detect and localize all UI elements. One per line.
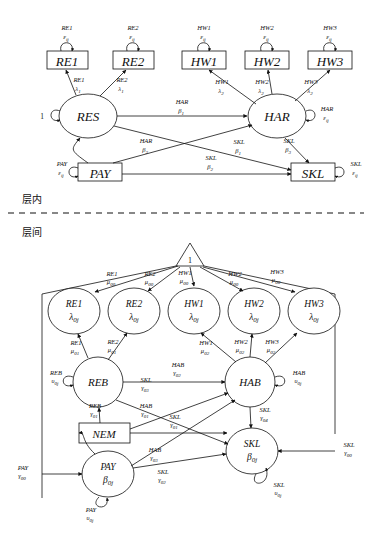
level-label-between: 层间 bbox=[22, 226, 42, 238]
residual-sym-payb: υ0j bbox=[87, 514, 94, 523]
pred-sym-hw1: μ02 bbox=[201, 347, 210, 356]
mean-label-hw3-top: HW3 bbox=[269, 268, 284, 275]
label-hw1-between-top: HW1 bbox=[183, 299, 204, 309]
residual-label-hw2-top: HW2 bbox=[259, 24, 274, 31]
path-label-res-skl-top: SKL bbox=[233, 138, 245, 145]
residual-label-re1-top: RE1 bbox=[60, 24, 72, 31]
loading-sym-re2: λ1 bbox=[117, 85, 123, 94]
path-label-hab-sklb-top: SKL bbox=[259, 406, 271, 413]
residual-loop-pay bbox=[69, 167, 78, 177]
label-skl-between-top: SKL bbox=[244, 439, 260, 449]
pred-sym-re1: μ01 bbox=[71, 347, 79, 356]
loading-sym-hw1: λ2 bbox=[217, 87, 224, 96]
residual-sym-har: εij bbox=[323, 114, 329, 123]
residual-label-skl-top: SKL bbox=[350, 160, 362, 167]
mean-sym-re2: μ00 bbox=[145, 278, 154, 287]
path-sym-payb-hab: γ03 bbox=[150, 454, 158, 463]
label-constant: 1 bbox=[188, 256, 192, 265]
path-sym-nem-reb: γ01 bbox=[90, 410, 98, 419]
label-re2: RE2 bbox=[121, 54, 145, 69]
label-hw1: HW1 bbox=[190, 54, 218, 69]
residual-loop-hab bbox=[275, 376, 285, 386]
node-pay-between bbox=[82, 451, 134, 497]
residual-sym-hw3: εij bbox=[326, 33, 332, 42]
path-label-const-sklb-top: SKL bbox=[343, 441, 355, 448]
pred-sym-re2: μ01 bbox=[108, 346, 116, 355]
label-nem: NEM bbox=[91, 428, 116, 440]
loading-label-hw3-top: HW3 bbox=[303, 78, 318, 85]
path-label-payb-sklb-top: SKL bbox=[157, 468, 169, 475]
residual-sym-hw2: εij bbox=[263, 33, 269, 42]
sem-path-diagram: RE1 RE2 HW1 HW2 HW3 RES HAR PAY SKL RE1 … bbox=[0, 0, 372, 543]
path-label-pay-har-top: HAR bbox=[139, 137, 153, 144]
mean-label-re1-top: RE1 bbox=[105, 270, 117, 277]
residual-label-sklb-top: SKL bbox=[273, 481, 285, 488]
label-re2-between-top: RE2 bbox=[125, 299, 143, 309]
node-hw2-between bbox=[228, 288, 280, 334]
path-sym-res-skl: β1 bbox=[234, 147, 241, 156]
residual-sym-re1: εij bbox=[63, 33, 69, 42]
label-re1: RE1 bbox=[55, 54, 78, 69]
loading-sym-hw2: λ2 bbox=[257, 87, 264, 96]
residual-label-pay-top: PAY bbox=[56, 160, 69, 167]
label-har: HAR bbox=[263, 109, 289, 124]
node-skl-between bbox=[226, 428, 278, 474]
path-hab-to-hw2b bbox=[250, 334, 252, 357]
residual-loop-hw3 bbox=[324, 43, 336, 51]
node-hw1-between bbox=[168, 288, 220, 334]
pred-label-re1-top: RE1 bbox=[69, 339, 81, 346]
path-label-pay-skl-top: SKL bbox=[205, 154, 217, 161]
residual-loop-har bbox=[306, 110, 315, 120]
residual-loop-re2 bbox=[127, 43, 139, 51]
label-reb: REB bbox=[87, 376, 108, 388]
path-sym-const-payb: γ00 bbox=[18, 472, 26, 481]
residual-loop-reb bbox=[63, 376, 73, 386]
loading-label-hw2-top: HW2 bbox=[254, 78, 269, 85]
path-label-nem-hab-top: HAB bbox=[139, 402, 153, 409]
node-re2-between bbox=[108, 288, 160, 334]
residual-loop-skl bbox=[335, 167, 344, 177]
path-reb-to-re1b bbox=[78, 334, 88, 358]
node-re1-between bbox=[48, 288, 100, 334]
residual-sym-re2: εij bbox=[129, 33, 135, 42]
pred-label-re2-top: RE2 bbox=[106, 338, 119, 345]
path-sym-pay-skl: β2 bbox=[206, 163, 213, 172]
path-sym-hab-sklb: γ04 bbox=[260, 414, 268, 423]
path-label-payb-hab-top: HAB bbox=[148, 446, 162, 453]
residual-label-reb-top: REB bbox=[49, 369, 62, 376]
path-label-const-payb-top: PAY bbox=[17, 464, 30, 471]
residual-sym-skl: εij bbox=[352, 169, 358, 178]
residual-sym-pay: εij bbox=[58, 169, 64, 178]
residual-label-hab-top: HAB bbox=[292, 369, 306, 376]
label-skl: SKL bbox=[302, 166, 324, 181]
label-hw2-between-top: HW2 bbox=[243, 299, 264, 309]
label-re1-between-top: RE1 bbox=[65, 299, 82, 309]
residual-loop-hw1 bbox=[198, 43, 210, 51]
residual-label-har-top: HAR bbox=[320, 105, 334, 112]
path-label-res-har-top: HAR bbox=[175, 98, 189, 105]
node-hw3-between bbox=[288, 288, 340, 334]
label-hab: HAB bbox=[238, 376, 261, 388]
loading-label-hw1-top: HW1 bbox=[214, 78, 228, 85]
variance-label-res: 1 bbox=[40, 112, 44, 121]
path-sym-payb-sklb: γ02 bbox=[158, 476, 166, 485]
mean-sym-hw2: μ00 bbox=[230, 278, 239, 287]
path-sym-reb-hab: γ02 bbox=[173, 369, 181, 378]
path-sym-har-skl: β3 bbox=[284, 146, 291, 155]
path-label-reb-sklb-top: SKL bbox=[140, 376, 152, 383]
mean-label-re2-top: RE2 bbox=[143, 270, 156, 277]
path-pay-to-res-curved bbox=[73, 138, 88, 163]
residual-sym-reb: υ0j bbox=[52, 377, 59, 386]
residual-loop-hw2 bbox=[261, 43, 273, 51]
residual-label-payb-top: PAY bbox=[85, 506, 98, 513]
loading-sym-hw3: λ2 bbox=[306, 87, 313, 96]
path-sym-const-sklb: γ00 bbox=[344, 449, 352, 458]
pred-label-hw2-top: HW2 bbox=[233, 338, 248, 345]
residual-sym-sklb: υ0j bbox=[275, 489, 282, 498]
pred-label-hw1-top: HW1 bbox=[198, 339, 212, 346]
mean-sym-hw1: μ00 bbox=[180, 277, 189, 286]
label-hw3-between-top: HW3 bbox=[303, 299, 324, 309]
mean-label-hw1-top: HW1 bbox=[177, 269, 191, 276]
residual-loop-re1 bbox=[61, 43, 73, 51]
label-pay-between-top: PAY bbox=[99, 462, 117, 472]
